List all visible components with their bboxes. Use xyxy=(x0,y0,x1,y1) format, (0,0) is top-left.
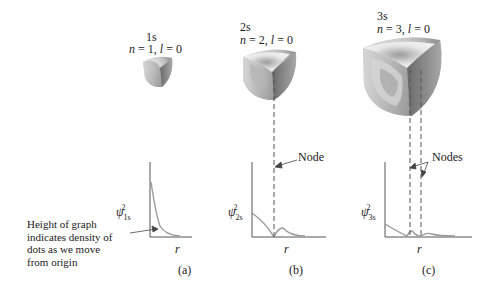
quantum-numbers-2s: n = 2, l = 0 xyxy=(240,33,293,47)
n-value: 3 xyxy=(396,22,402,36)
caption-b: (b) xyxy=(289,263,303,277)
orbital-2s-shape xyxy=(243,49,296,100)
orbital-3s-title: 3s xyxy=(377,9,388,23)
graph-a-x-label: r xyxy=(175,242,180,256)
graph-c-x-label: r xyxy=(417,242,422,256)
node-annotation: Node xyxy=(298,150,324,164)
density-note: Height of graph indicates density of dot… xyxy=(27,218,113,268)
l-value: 0 xyxy=(287,33,293,47)
caption-a: (a) xyxy=(178,263,191,277)
l-value: 0 xyxy=(176,42,182,56)
nodes-annotation: Nodes xyxy=(432,150,463,164)
orbital-1s-shape xyxy=(143,57,172,87)
l-value: 0 xyxy=(424,22,430,36)
graph-b-curve xyxy=(252,213,305,237)
orbital-name: 2s xyxy=(240,20,251,34)
note-line: from origin xyxy=(27,256,113,269)
graph-c-curve xyxy=(385,224,455,236)
graph-b-y-label: ψ2s2 xyxy=(228,205,247,221)
orbital-2s-title: 2s xyxy=(240,20,251,34)
graph-a-y-label: ψ1s2 xyxy=(116,205,135,221)
note-line: Height of graph xyxy=(27,218,113,231)
y-superscript: 2 xyxy=(234,203,238,212)
quantum-numbers-3s: n = 3, l = 0 xyxy=(377,22,430,36)
orbital-name: 3s xyxy=(377,9,388,23)
y-subscript: 3s xyxy=(368,213,375,222)
caption-c: (c) xyxy=(422,263,435,277)
y-subscript: 2s xyxy=(235,213,242,222)
note-line: indicates density of xyxy=(27,231,113,244)
y-superscript: 2 xyxy=(367,203,371,212)
n-value: 2 xyxy=(259,33,265,47)
orbital-3s-shape xyxy=(363,37,441,116)
y-superscript: 2 xyxy=(122,203,126,212)
graph-c-y-label: ψ3s2 xyxy=(361,205,380,221)
density-pointer-arrow xyxy=(130,229,156,233)
quantum-numbers-1s: n = 1, l = 0 xyxy=(129,42,182,56)
n-value: 1 xyxy=(148,42,154,56)
y-subscript: 1s xyxy=(123,213,130,222)
graph-b-x-label: r xyxy=(284,242,289,256)
note-line: dots as we move xyxy=(27,243,113,256)
